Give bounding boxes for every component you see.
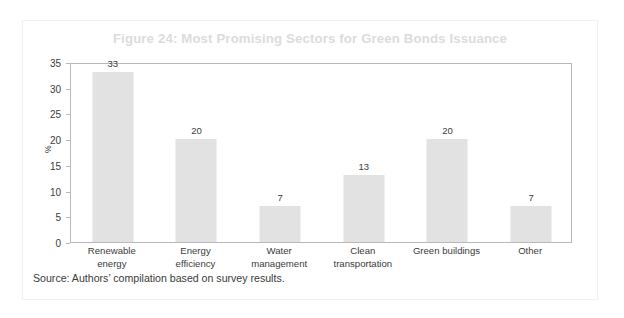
x-axis-category-line: efficiency: [154, 258, 238, 271]
x-axis-category-line: Other: [488, 245, 572, 258]
figure-card: Figure 24: Most Promising Sectors for Gr…: [22, 20, 598, 300]
x-axis-category-label: Cleantransportation: [321, 245, 405, 270]
bar-slot: 20: [406, 64, 490, 242]
x-axis-category-label: Other: [488, 245, 572, 258]
x-axis-category-line: Water: [237, 245, 321, 258]
x-axis-category-label: Green buildings: [405, 245, 489, 258]
bar-value-label: 33: [108, 58, 119, 69]
bar[interactable]: [176, 139, 217, 242]
bar-slot: 20: [155, 64, 239, 242]
y-axis: 05101520253035: [23, 63, 70, 243]
bar-slot: 7: [238, 64, 322, 242]
x-axis-category-label: Renewableenergy: [70, 245, 154, 270]
x-axis-category-line: energy: [70, 258, 154, 271]
x-axis-category-label: Energyefficiency: [154, 245, 238, 270]
y-tick-label: 30: [50, 83, 61, 94]
x-axis-category-line: Renewable: [70, 245, 154, 258]
y-tick-mark: [66, 243, 70, 244]
bar[interactable]: [92, 72, 133, 242]
bar-value-label: 20: [442, 125, 453, 136]
bar-value-label: 7: [529, 192, 534, 203]
x-axis-category-line: management: [237, 258, 321, 271]
bar-value-label: 7: [278, 192, 283, 203]
y-tick-label: 10: [50, 186, 61, 197]
bar[interactable]: [427, 139, 468, 242]
y-tick-label: 35: [50, 58, 61, 69]
source-note: Source: Authors’ compilation based on su…: [33, 272, 285, 284]
plot-area: 3320713207: [70, 63, 572, 243]
x-axis-category-line: transportation: [321, 258, 405, 271]
x-axis-category-line: Green buildings: [405, 245, 489, 258]
bar-slot: 13: [322, 64, 406, 242]
bar-slot: 33: [71, 64, 155, 242]
figure-title: Figure 24: Most Promising Sectors for Gr…: [23, 31, 597, 46]
bars-layer: 3320713207: [71, 64, 571, 242]
y-tick-label: 20: [50, 135, 61, 146]
y-tick-label: 5: [55, 212, 61, 223]
bar[interactable]: [343, 175, 384, 242]
y-tick-label: 15: [50, 160, 61, 171]
bar[interactable]: [511, 206, 552, 242]
bar-value-label: 13: [359, 161, 370, 172]
bar-value-label: 20: [191, 125, 202, 136]
y-tick-label: 25: [50, 109, 61, 120]
x-axis-category-line: Clean: [321, 245, 405, 258]
x-axis-category-label: Watermanagement: [237, 245, 321, 270]
x-axis-category-line: Energy: [154, 245, 238, 258]
bar-slot: 7: [489, 64, 573, 242]
y-tick-label: 0: [55, 238, 61, 249]
bar[interactable]: [260, 206, 301, 242]
